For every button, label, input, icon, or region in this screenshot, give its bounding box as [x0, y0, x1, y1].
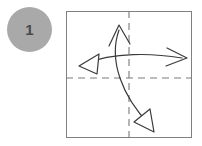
origami-paper-svg — [66, 11, 192, 138]
step-number-label: 1 — [25, 22, 33, 37]
diagram-canvas: 1 — [0, 0, 202, 146]
paper-square-panel — [66, 11, 192, 138]
step-number-badge: 1 — [7, 7, 52, 52]
